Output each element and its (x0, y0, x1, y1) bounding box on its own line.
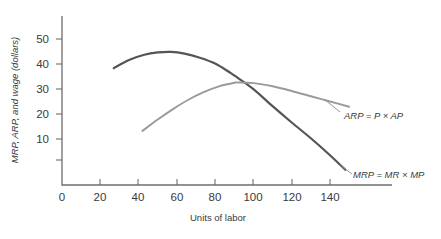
x-tick-label-0: 0 (59, 191, 65, 203)
arp-curve-label: ARP = P × AP (343, 110, 404, 121)
mrp-curve (114, 52, 346, 170)
x-tick-label-20: 20 (94, 191, 107, 203)
y-tick-label-50: 50 (36, 33, 49, 45)
arp-leader-line (324, 99, 340, 112)
x-tick-label-140: 140 (320, 191, 339, 203)
y-tick-label-30: 30 (36, 83, 49, 95)
chart-container: 50 40 30 20 10 0 20 40 60 80 100 120 140… (0, 0, 441, 239)
x-tick-label-100: 100 (243, 191, 262, 203)
x-tick-label-80: 80 (209, 191, 222, 203)
x-axis-title: Units of labor (190, 212, 246, 223)
y-tick-marks (56, 39, 62, 160)
x-tick-label-120: 120 (282, 191, 301, 203)
chart-svg: 50 40 30 20 10 0 20 40 60 80 100 120 140… (0, 0, 441, 239)
x-tick-marks (100, 179, 330, 185)
mrp-curve-label: MRP = MR × MP (353, 169, 425, 180)
axis-lines (62, 16, 392, 185)
mrp-leader-line (340, 165, 352, 174)
y-tick-label-20: 20 (36, 108, 49, 120)
y-tick-label-10: 10 (36, 133, 49, 145)
arp-curve (142, 82, 349, 131)
y-tick-label-40: 40 (36, 58, 49, 70)
x-tick-label-60: 60 (171, 191, 184, 203)
y-axis-title: MRP, ARP, and wage (dollars) (9, 37, 20, 164)
x-tick-label-40: 40 (132, 191, 145, 203)
